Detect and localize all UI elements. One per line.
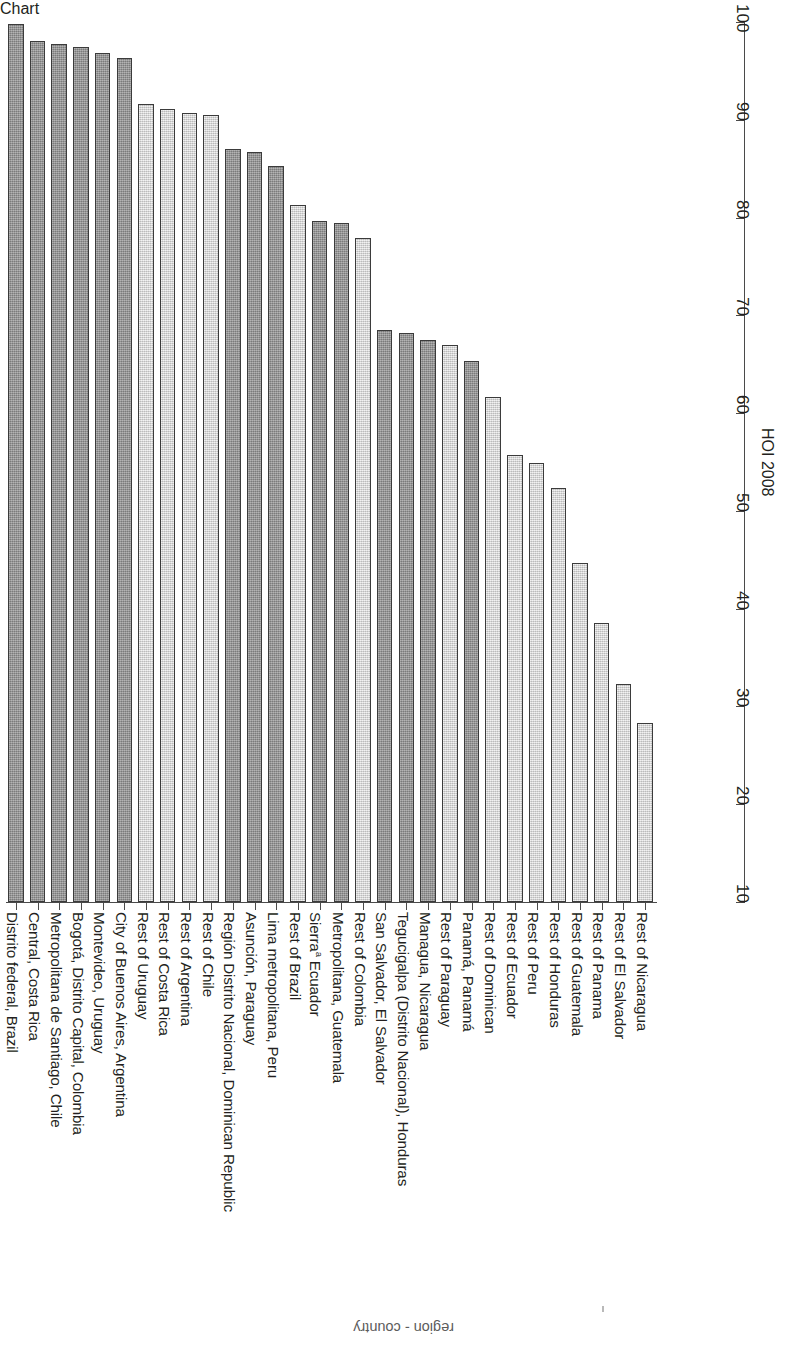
category-tick [385, 903, 386, 910]
bar-series [0, 0, 660, 902]
category-label: San Salvador, El Salvador [373, 912, 390, 1085]
bar [290, 205, 306, 902]
bar [594, 623, 610, 902]
value-tick-label: 40 [732, 591, 752, 610]
value-tick-label: 70 [732, 297, 752, 316]
category-tick [81, 903, 82, 910]
value-axis-line [744, 22, 745, 903]
category-tick [16, 903, 17, 910]
category-tick [59, 903, 60, 910]
bar [225, 149, 241, 902]
bar [138, 104, 154, 902]
category-label: Bogotá, Distrito Capital, Colombia [70, 912, 87, 1135]
category-tick [472, 903, 473, 910]
bar [247, 152, 263, 902]
bar [8, 24, 24, 902]
bar [442, 345, 458, 902]
category-label: Rest of Costa Rica [156, 912, 173, 1036]
value-tick-label: 100 [732, 4, 752, 32]
category-label: Metropolitana, Guatemala [330, 912, 347, 1083]
bar [51, 44, 67, 902]
value-tick-label: 80 [732, 200, 752, 219]
category-label: Rest of Honduras [547, 912, 564, 1028]
category-tick [298, 903, 299, 910]
category-tick [124, 903, 125, 910]
category-label: Rest of Colombia [352, 912, 369, 1026]
bar [312, 221, 328, 902]
category-tick [623, 903, 624, 910]
category-label: Distrito federal, Brazil [4, 912, 21, 1053]
value-axis-title: HOI 2008 [758, 428, 776, 496]
category-label: Sierraa Ecuador [307, 912, 325, 1016]
category-tick [233, 903, 234, 910]
bar [95, 53, 111, 902]
bar [616, 684, 632, 902]
bar [117, 58, 133, 902]
category-label: Lima metropolitana, Peru [265, 912, 282, 1078]
bar [334, 223, 350, 902]
category-label: Rest of Brazil [287, 912, 304, 1000]
category-label: Rest of Nicaragua [634, 912, 651, 1031]
category-tick [602, 903, 603, 910]
bar [268, 166, 284, 902]
category-label: City of Buenos Aires, Argentina [113, 912, 130, 1117]
category-label: Rest of Argentina [178, 912, 195, 1026]
category-tick [38, 903, 39, 910]
page-speck [602, 1306, 604, 1312]
plot-area [0, 0, 740, 905]
category-tick [493, 903, 494, 910]
category-label: Central, Costa Rica [26, 912, 43, 1041]
category-tick [363, 903, 364, 910]
value-tick-label: 60 [732, 395, 752, 414]
category-tick [428, 903, 429, 910]
bar [355, 238, 371, 902]
value-tick-label: 10 [732, 884, 752, 903]
bar [420, 340, 436, 902]
category-label: Tegucigalpa (Distrito Nacional), Hondura… [395, 912, 412, 1186]
bar [551, 488, 567, 902]
category-tick [189, 903, 190, 910]
category-tick [211, 903, 212, 910]
value-tick-label: 50 [732, 493, 752, 512]
bar [529, 463, 545, 902]
category-label: Rest of Guatemala [569, 912, 586, 1036]
value-tick-label: 20 [732, 786, 752, 805]
category-label: Rest of Paraguay [438, 912, 455, 1027]
chart-figure: Distrito federal, BrazilCentral, Costa R… [0, 0, 792, 1363]
value-tick-label: 90 [732, 102, 752, 121]
category-label: Asunción, Paraguay [243, 912, 260, 1045]
bar [485, 397, 501, 902]
category-tick [255, 903, 256, 910]
category-label: Rest of Uruguay [135, 912, 152, 1020]
category-tick [450, 903, 451, 910]
bar [464, 361, 480, 902]
bar [572, 563, 588, 902]
category-tick [645, 903, 646, 910]
category-tick [103, 903, 104, 910]
category-tick [558, 903, 559, 910]
category-label: Montevideo, Uruguay [91, 912, 108, 1054]
category-label: Rest of Chile [200, 912, 217, 997]
bar [507, 455, 523, 902]
bar [637, 723, 653, 902]
bar [377, 330, 393, 902]
category-tick [146, 903, 147, 910]
category-axis-title: region - country [353, 1320, 454, 1336]
value-tick-label: 30 [732, 688, 752, 707]
category-label: Metropolitana de Santiago, Chile [48, 912, 65, 1128]
bar [73, 47, 89, 902]
bar [182, 113, 198, 902]
category-tick [341, 903, 342, 910]
category-label: Rest of Dominican [482, 912, 499, 1034]
category-label: Región Distrito Nacional, Dominican Repu… [221, 912, 238, 1212]
category-axis-line [6, 902, 657, 903]
category-label: Rest of Panama [590, 912, 607, 1019]
category-tick [580, 903, 581, 910]
category-label: Panamá, Panamá [460, 912, 477, 1031]
category-label: Rest of Ecuador [504, 912, 521, 1019]
category-tick [320, 903, 321, 910]
category-tick [537, 903, 538, 910]
category-tick [276, 903, 277, 910]
bar [160, 109, 176, 902]
bar [399, 333, 415, 902]
